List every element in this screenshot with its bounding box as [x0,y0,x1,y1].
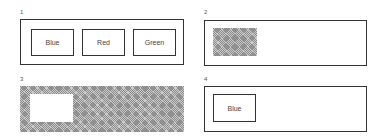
panel-1-frame: Blue Red Green [20,19,184,65]
blue-button[interactable]: Blue [213,94,256,122]
empty-white-rect [30,94,73,122]
panel-4-number: 4 [204,76,207,82]
hatched-placeholder [213,28,257,56]
green-button[interactable]: Green [133,29,176,56]
panel-2-frame [204,20,367,66]
panel-4-frame: Blue [204,86,367,132]
blue-button[interactable]: Blue [31,29,74,56]
panel-1-number: 1 [20,9,23,15]
panel-3-number: 3 [20,76,23,82]
red-button[interactable]: Red [82,29,125,56]
panel-3-hatched-frame [20,86,184,132]
panel-2-number: 2 [204,9,207,15]
